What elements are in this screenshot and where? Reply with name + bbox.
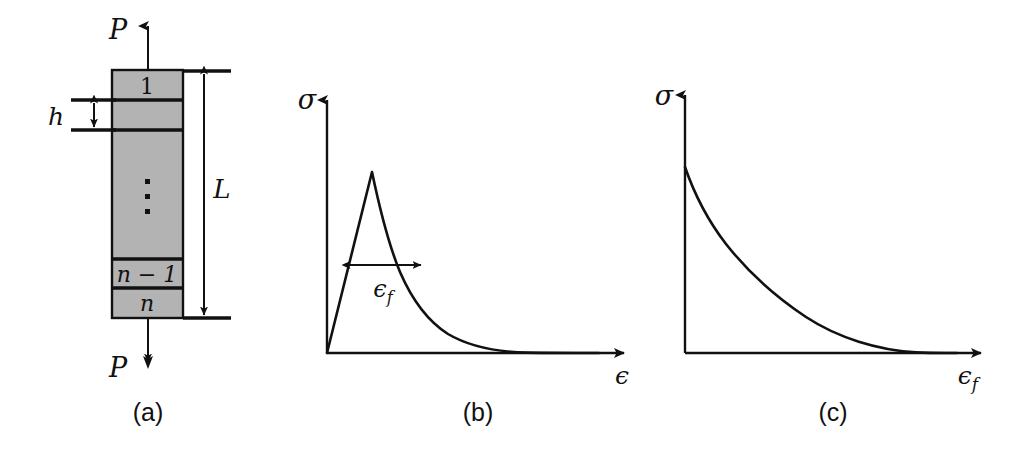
- slice-label-n-minus-1: n − 1: [117, 262, 178, 287]
- load-label-bottom: P: [108, 352, 128, 383]
- dimension-h: [71, 100, 116, 130]
- slice-label-first: 1: [140, 74, 154, 99]
- load-label-top: P: [108, 14, 128, 45]
- panel-b-stress-strain-curve: [327, 172, 599, 353]
- slice-label-n: n: [140, 291, 154, 316]
- panel-c-stress-decay-curve: [685, 167, 957, 353]
- panel-caption-b: (b): [463, 398, 494, 426]
- panel-b-x-axis-label: ϵ: [615, 361, 629, 390]
- panel-a: P 1 n − 1 n: [48, 14, 231, 426]
- panel-c-y-axis-label: σ: [655, 80, 675, 111]
- dimension-L-label: L: [212, 174, 230, 204]
- figure-canvas: P 1 n − 1 n: [0, 0, 1033, 455]
- figure-root: P 1 n − 1 n: [0, 0, 1033, 455]
- dimension-h-label: h: [48, 102, 64, 131]
- panel-caption-c: (c): [818, 398, 847, 426]
- load-arrow-bottom: [143, 318, 153, 369]
- panel-caption-a: (a): [133, 398, 164, 426]
- panel-b-y-axis-label: σ: [298, 84, 318, 115]
- panel-b: σ ϵ ϵf (b): [298, 84, 629, 426]
- panel-b-failure-strain-label: ϵf: [373, 275, 395, 307]
- panel-c: σ ϵf (c): [655, 80, 981, 426]
- panel-c-x-axis-label: ϵf: [958, 361, 981, 394]
